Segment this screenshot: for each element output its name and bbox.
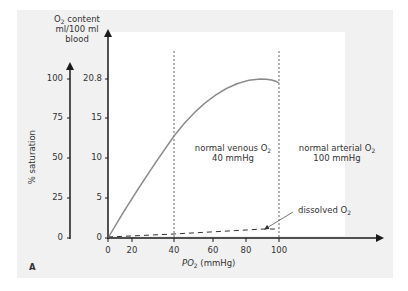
right-axis-title: O2 content ml/100 ml blood bbox=[44, 14, 110, 45]
panel-label: A bbox=[29, 262, 36, 272]
x-axis-title-units: (mmHg) bbox=[198, 258, 236, 268]
x-tick-label: 40 bbox=[162, 245, 186, 255]
right-y-axis bbox=[105, 33, 108, 239]
right-tick-label: 20.8 bbox=[72, 73, 102, 83]
x-axis bbox=[107, 238, 380, 242]
right-axis-title-units: ml/100 ml bbox=[44, 24, 110, 34]
arterial-label-sub: 2 bbox=[371, 147, 375, 154]
x-tick-label: 20 bbox=[120, 245, 144, 255]
x-axis-title: PO2 (mmHg) bbox=[182, 258, 235, 268]
left-tick-label: 25 bbox=[33, 192, 63, 202]
x-axis-title-po: PO bbox=[182, 258, 194, 268]
dissolved-annotation-arrow bbox=[265, 212, 293, 229]
left-tick-label: 0 bbox=[33, 232, 63, 242]
right-tick-label: 15 bbox=[72, 112, 102, 122]
right-tick-label: 10 bbox=[72, 152, 102, 162]
arterial-label: normal arterial O bbox=[299, 143, 372, 153]
dissolved-annotation: dissolved O2 bbox=[298, 205, 351, 215]
venous-annotation: normal venous O2 40 mmHg bbox=[190, 143, 276, 163]
right-axis-title-blood: blood bbox=[44, 34, 110, 44]
right-axis-title-rest: content bbox=[65, 14, 100, 24]
left-tick-label: 75 bbox=[33, 112, 63, 122]
x-tick-label: 60 bbox=[201, 245, 225, 255]
right-tick-label: 0 bbox=[72, 232, 102, 242]
x-tick-label: 100 bbox=[267, 245, 291, 255]
arterial-value: 100 mmHg bbox=[292, 153, 382, 163]
left-tick-label: 100 bbox=[33, 73, 63, 83]
dissolved-o2-line bbox=[108, 229, 279, 237]
venous-label-sub: 2 bbox=[267, 147, 271, 154]
venous-label: normal venous O bbox=[195, 143, 268, 153]
arterial-annotation: normal arterial O2 100 mmHg bbox=[292, 143, 382, 163]
x-tick-label: 0 bbox=[96, 245, 120, 255]
x-tick-label: 80 bbox=[234, 245, 258, 255]
left-tick-label: 50 bbox=[33, 152, 63, 162]
dissolved-label-sub: 2 bbox=[347, 209, 351, 216]
dissolved-label: dissolved O bbox=[298, 205, 347, 215]
right-axis-title-o: O bbox=[54, 14, 61, 24]
right-tick-label: 5 bbox=[72, 192, 102, 202]
left-y-axis bbox=[67, 66, 70, 239]
venous-value: 40 mmHg bbox=[190, 153, 276, 163]
